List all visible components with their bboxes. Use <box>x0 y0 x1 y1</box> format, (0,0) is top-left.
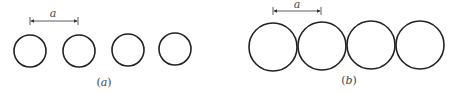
circle <box>14 35 46 67</box>
circle <box>63 35 95 67</box>
panel-caption: (a) <box>96 76 111 89</box>
diagram: a(a)a(b) <box>0 0 457 94</box>
panel-b: a(b) <box>249 0 444 87</box>
panel-a: a(a) <box>14 7 191 89</box>
dimension-label: a <box>50 7 57 20</box>
panel-caption: (b) <box>341 74 357 87</box>
circle <box>159 33 191 65</box>
dimension-label: a <box>294 0 301 11</box>
circle <box>347 21 395 69</box>
circle <box>112 34 144 66</box>
circle <box>298 22 346 70</box>
circle <box>249 23 297 71</box>
circle <box>396 21 444 69</box>
